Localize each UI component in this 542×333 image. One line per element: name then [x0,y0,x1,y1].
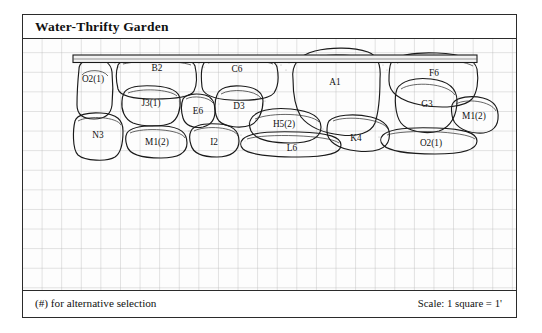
stone-label-M1b: M1(2) [462,111,486,122]
footnote-alternative-selection: (#) for alternative selection [35,297,156,309]
stone-wall-drawing: O2(1) B2 C6 A1 F6 J3(1) E6 D3 G3 M1(2) H… [23,39,517,292]
stone-label-E6: E6 [193,106,204,116]
stone-label-K4: K4 [350,133,362,143]
garden-plan-screenshot: Water-Thrifty Garden [0,0,542,333]
footer-band: (#) for alternative selection Scale: 1 s… [23,290,516,317]
stone-label-C6: C6 [232,64,243,74]
stone-label-M1a: M1(2) [145,137,169,148]
drawing-plate: Water-Thrifty Garden [22,14,517,318]
page-title: Water-Thrifty Garden [35,19,169,35]
stone-label-O2b: O2(1) [420,138,442,149]
stone-label-J3: J3(1) [141,98,160,109]
wall-cap-bar [73,55,477,63]
stone-label-L6: L6 [287,143,298,153]
stone-label-G3: G3 [421,99,433,109]
stone-label-F6: F6 [429,68,439,78]
stone-label-D3: D3 [233,101,245,111]
stone-label-O2a: O2(1) [82,74,104,85]
stone-label-H5: H5(2) [273,119,295,130]
stone-label-I2: I2 [210,137,218,147]
title-band: Water-Thrifty Garden [23,15,516,39]
stone-O2a[interactable] [77,59,113,119]
stone-label-N3: N3 [92,130,104,140]
stone-label-A1: A1 [329,77,341,87]
scale-note: Scale: 1 square = 1' [418,297,502,309]
stone-label-B2: B2 [152,63,163,73]
